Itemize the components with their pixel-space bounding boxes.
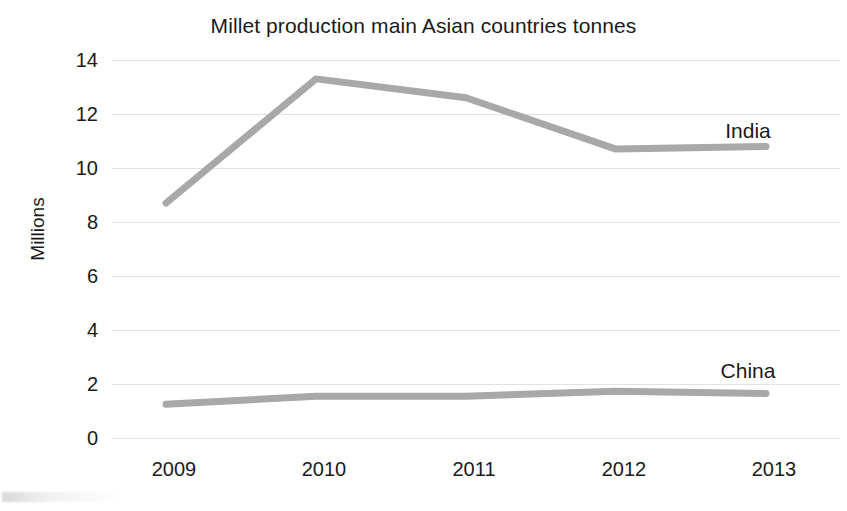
series-label-china: China xyxy=(721,359,776,383)
chart-container: Millet production main Asian countries t… xyxy=(0,0,847,511)
scan-artifact xyxy=(2,492,124,502)
line-series-china xyxy=(166,391,766,404)
series-lines xyxy=(0,0,847,511)
series-label-india: India xyxy=(725,119,771,143)
line-series-india xyxy=(166,79,766,203)
